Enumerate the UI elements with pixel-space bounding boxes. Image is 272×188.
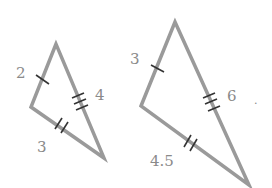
diagram-canvas: 2 4 3 3 6 4.5 . — [0, 0, 272, 188]
large-side-short-label: 3 — [130, 50, 140, 68]
large-side-long-label: 6 — [227, 87, 237, 105]
similar-triangles-diagram: 2 4 3 3 6 4.5 . — [0, 0, 272, 188]
small-side-long-label: 4 — [95, 86, 105, 104]
small-side-short-label: 2 — [16, 64, 26, 82]
large-side-mid-label: 4.5 — [150, 152, 174, 170]
stray-dot: . — [254, 94, 258, 107]
small-side-mid-label: 3 — [37, 138, 47, 156]
